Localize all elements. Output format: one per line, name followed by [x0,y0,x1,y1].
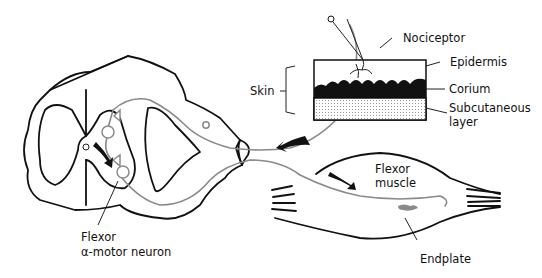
label-epidermis: Epidermis [450,55,507,69]
label-subcutaneous-2: layer [449,115,478,129]
label-subcutaneous-1: Subcutaneous [449,101,531,115]
label-skin: Skin [250,84,274,98]
label-motor-neuron-2: α-motor neuron [81,245,171,259]
label-flexor-muscle-1: Flexor [375,162,410,176]
skin-brace [280,66,295,114]
reflex-diagram: Nociceptor Epidermis Corium Subcutaneous… [0,0,542,278]
endplate [398,205,418,211]
label-motor-neuron-1: Flexor [81,230,116,244]
label-endplate: Endplate [420,252,471,266]
label-nociceptor: Nociceptor [403,31,465,45]
label-corium: Corium [449,82,490,96]
label-flexor-muscle-2: muscle [375,176,416,190]
spinal-cord [24,56,249,219]
